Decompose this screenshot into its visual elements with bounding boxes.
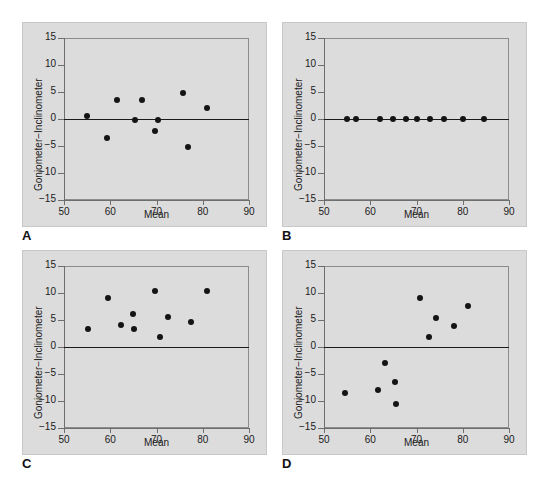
data-point xyxy=(188,319,194,325)
y-tick-c-4 xyxy=(58,374,64,375)
y-ticklabel-b-3: 0 xyxy=(283,112,316,123)
x-tick-b-4 xyxy=(509,200,510,205)
y-tick-c-0 xyxy=(58,266,64,267)
panel-letter-c: C xyxy=(22,456,31,471)
x-tick-d-2 xyxy=(417,428,418,433)
x-ticklabel-d-0: 50 xyxy=(318,434,329,445)
y-ticklabel-c-5: −10 xyxy=(23,394,56,405)
y-ticklabel-b-0: 15 xyxy=(283,31,316,42)
y-tick-a-5 xyxy=(58,173,64,174)
data-point xyxy=(130,311,136,317)
data-point xyxy=(460,116,466,122)
x-ticklabel-a-3: 80 xyxy=(197,206,208,217)
x-tick-c-3 xyxy=(203,428,204,433)
y-tick-d-1 xyxy=(318,293,324,294)
x-ticklabel-a-4: 90 xyxy=(243,206,254,217)
y-tick-a-2 xyxy=(58,92,64,93)
data-point xyxy=(375,387,381,393)
zero-reference-line-c xyxy=(64,347,249,348)
data-point xyxy=(481,116,487,122)
panel-letter-a: A xyxy=(22,228,31,243)
x-tick-b-1 xyxy=(370,200,371,205)
y-ticklabel-b-5: −10 xyxy=(283,166,316,177)
x-tick-d-0 xyxy=(324,428,325,433)
y-tick-d-3 xyxy=(318,347,324,348)
x-tick-d-3 xyxy=(463,428,464,433)
x-ticklabel-c-4: 90 xyxy=(243,434,254,445)
panel-a: Mean Goniometer−Inclinometer 151050−5−10… xyxy=(22,22,267,227)
y-tick-c-2 xyxy=(58,320,64,321)
y-ticklabel-c-6: −15 xyxy=(23,421,56,432)
x-ticklabel-c-3: 80 xyxy=(197,434,208,445)
data-point xyxy=(414,116,420,122)
y-tick-c-3 xyxy=(58,347,64,348)
figure-bland-altman-grid: Mean Goniometer−Inclinometer 151050−5−10… xyxy=(0,0,535,480)
data-point xyxy=(433,315,439,321)
y-tick-a-0 xyxy=(58,38,64,39)
x-tick-b-0 xyxy=(324,200,325,205)
x-tick-b-3 xyxy=(463,200,464,205)
zero-reference-line-d xyxy=(324,347,509,348)
y-tick-b-2 xyxy=(318,92,324,93)
y-ticklabel-d-6: −15 xyxy=(283,421,316,432)
data-point xyxy=(155,117,161,123)
x-ticklabel-a-0: 50 xyxy=(58,206,69,217)
x-ticklabel-a-1: 60 xyxy=(105,206,116,217)
x-tick-c-2 xyxy=(157,428,158,433)
y-ticklabel-a-6: −15 xyxy=(23,193,56,204)
y-tick-d-2 xyxy=(318,320,324,321)
x-ticklabel-b-2: 70 xyxy=(411,206,422,217)
x-tick-a-0 xyxy=(64,200,65,205)
y-ticklabel-a-2: 5 xyxy=(23,85,56,96)
x-ticklabel-a-2: 70 xyxy=(151,206,162,217)
data-point xyxy=(392,379,398,385)
data-point xyxy=(165,314,171,320)
x-tick-c-4 xyxy=(249,428,250,433)
y-ticklabel-c-4: −5 xyxy=(23,367,56,378)
x-tick-d-1 xyxy=(370,428,371,433)
x-ticklabel-b-1: 60 xyxy=(365,206,376,217)
panel-b: Mean Goniometer−Inclinometer 151050−5−10… xyxy=(282,22,527,227)
y-ticklabel-d-4: −5 xyxy=(283,367,316,378)
y-ticklabel-a-5: −10 xyxy=(23,166,56,177)
x-tick-c-0 xyxy=(64,428,65,433)
y-tick-c-1 xyxy=(58,293,64,294)
x-ticklabel-b-4: 90 xyxy=(503,206,514,217)
data-point xyxy=(403,116,409,122)
x-tick-c-1 xyxy=(110,428,111,433)
y-ticklabel-d-5: −10 xyxy=(283,394,316,405)
y-tick-d-5 xyxy=(318,401,324,402)
y-ticklabel-d-2: 5 xyxy=(283,313,316,324)
y-ticklabel-b-1: 10 xyxy=(283,58,316,69)
y-tick-b-1 xyxy=(318,65,324,66)
x-tick-d-4 xyxy=(509,428,510,433)
y-ticklabel-d-3: 0 xyxy=(283,340,316,351)
data-point xyxy=(132,117,138,123)
y-ticklabel-a-1: 10 xyxy=(23,58,56,69)
y-ticklabel-d-0: 15 xyxy=(283,259,316,270)
x-ticklabel-d-4: 90 xyxy=(503,434,514,445)
y-ticklabel-a-0: 15 xyxy=(23,31,56,42)
y-tick-d-0 xyxy=(318,266,324,267)
panel-c: Mean Goniometer−Inclinometer 151050−5−10… xyxy=(22,250,267,455)
data-point xyxy=(426,334,432,340)
x-ticklabel-c-1: 60 xyxy=(105,434,116,445)
panel-letter-b: B xyxy=(282,228,291,243)
data-point xyxy=(393,401,399,407)
panel-d: Mean Goniometer−Inclinometer 151050−5−10… xyxy=(282,250,527,455)
y-tick-b-0 xyxy=(318,38,324,39)
data-point xyxy=(139,97,145,103)
y-tick-b-5 xyxy=(318,173,324,174)
y-ticklabel-a-3: 0 xyxy=(23,112,56,123)
data-point xyxy=(85,326,91,332)
y-tick-c-5 xyxy=(58,401,64,402)
y-tick-a-3 xyxy=(58,119,64,120)
x-ticklabel-c-2: 70 xyxy=(151,434,162,445)
y-ticklabel-d-1: 10 xyxy=(283,286,316,297)
x-ticklabel-c-0: 50 xyxy=(58,434,69,445)
x-tick-b-2 xyxy=(417,200,418,205)
y-ticklabel-a-4: −5 xyxy=(23,139,56,150)
x-tick-a-2 xyxy=(157,200,158,205)
y-tick-a-4 xyxy=(58,146,64,147)
x-tick-a-1 xyxy=(110,200,111,205)
